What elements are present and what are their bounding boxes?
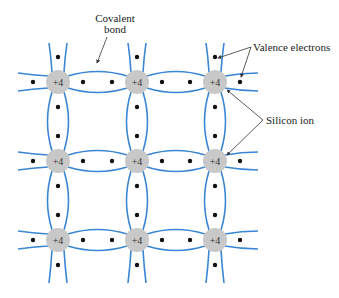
- valence-electron-dot: [188, 159, 192, 163]
- valence-electron-dot: [213, 134, 217, 138]
- valence-electron-dot: [160, 238, 164, 242]
- covalent-bond-label-line2: bond: [104, 23, 127, 35]
- valence-electron-dot: [135, 213, 139, 217]
- silicon-ion: +4: [203, 228, 227, 252]
- silicon-ion: +4: [203, 149, 227, 173]
- valence-electron-dot: [56, 105, 60, 109]
- valence-electron-dot: [238, 80, 242, 84]
- valence-electron-dot: [213, 213, 217, 217]
- ion-charge-label: +4: [132, 235, 143, 246]
- silicon-ion: +4: [125, 70, 149, 94]
- silicon-ion: +4: [46, 228, 70, 252]
- silicon-ions: +4+4+4+4+4+4+4+4+4: [46, 70, 227, 252]
- valence-electron-dot: [213, 263, 217, 267]
- ion-charge-label: +4: [210, 235, 221, 246]
- valence-electron-dot: [213, 55, 217, 59]
- valence-electron-dot: [160, 159, 164, 163]
- silicon-ion: +4: [125, 149, 149, 173]
- ion-charge-label: +4: [53, 77, 64, 88]
- valence-electron-dot: [81, 80, 85, 84]
- valence-electron-dot: [188, 238, 192, 242]
- valence-electron-dot: [110, 238, 114, 242]
- valence-electron-dot: [31, 238, 35, 242]
- covalent-bond-arrow: [97, 37, 107, 63]
- valence-electron-dot: [135, 134, 139, 138]
- valence-electron-dot: [31, 80, 35, 84]
- ion-charge-label: +4: [210, 77, 221, 88]
- valence-electron-dot: [160, 80, 164, 84]
- valence-electron-dot: [135, 55, 139, 59]
- ion-charge-label: +4: [210, 156, 221, 167]
- valence-electron-dot: [110, 159, 114, 163]
- silicon-ion: +4: [46, 70, 70, 94]
- silicon-ion: +4: [125, 228, 149, 252]
- valence-electron-dot: [56, 213, 60, 217]
- ion-charge-label: +4: [132, 156, 143, 167]
- valence-electron-dot: [238, 159, 242, 163]
- silicon-ion-arrow-1: [227, 90, 263, 120]
- valence-electrons-label: Valence electrons: [253, 41, 330, 53]
- valence-electron-dot: [213, 105, 217, 109]
- valence-electron-dot: [135, 263, 139, 267]
- valence-electron-dot: [56, 134, 60, 138]
- valence-electron-dot: [31, 159, 35, 163]
- valence-electron-dot: [81, 159, 85, 163]
- silicon-lattice-diagram: +4+4+4+4+4+4+4+4+4 Covalent bond Valence…: [0, 0, 339, 298]
- valence-electron-dot: [56, 55, 60, 59]
- valence-electron-dot: [110, 80, 114, 84]
- valence-electron-dot: [135, 105, 139, 109]
- ion-charge-label: +4: [53, 235, 64, 246]
- valence-electron-dot: [81, 238, 85, 242]
- silicon-ion-arrow-2: [227, 120, 263, 155]
- ion-charge-label: +4: [132, 77, 143, 88]
- silicon-ion-label: Silicon ion: [266, 114, 314, 126]
- valence-electron-dot: [238, 238, 242, 242]
- valence-electron-dot: [188, 80, 192, 84]
- ion-charge-label: +4: [53, 156, 64, 167]
- valence-electron-dot: [56, 184, 60, 188]
- silicon-ion: +4: [46, 149, 70, 173]
- valence-electron-dot: [213, 184, 217, 188]
- silicon-ion: +4: [203, 70, 227, 94]
- valence-electron-dot: [135, 184, 139, 188]
- valence-electron-dot: [56, 263, 60, 267]
